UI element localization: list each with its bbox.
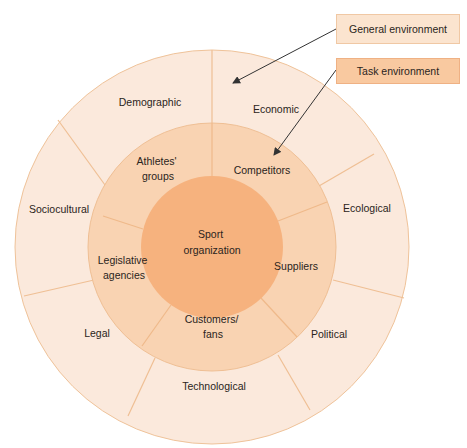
legend-general-label: General environment — [349, 23, 447, 35]
general-label-legal: Legal — [84, 327, 110, 339]
task-label-suppliers: Suppliers — [274, 260, 318, 272]
general-label-political: Political — [311, 328, 347, 340]
general-label-sociocultural: Sociocultural — [29, 203, 89, 215]
general-label-demographic: Demographic — [119, 96, 181, 108]
general-label-technological: Technological — [182, 380, 246, 392]
general-label-economic: Economic — [253, 103, 299, 115]
legend-general-environment: General environment — [336, 14, 460, 44]
legend-task-environment: Task environment — [336, 58, 460, 84]
general-label-ecological: Ecological — [343, 202, 391, 214]
legend-task-label: Task environment — [357, 65, 439, 77]
task-label-competitors: Competitors — [234, 164, 291, 176]
